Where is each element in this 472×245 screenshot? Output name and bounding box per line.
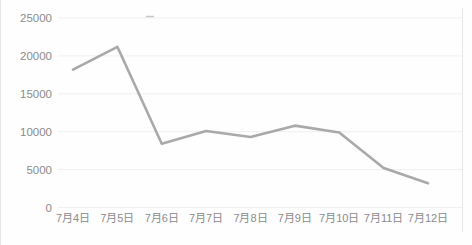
chart-plot-area: 05000100001500020000250007月4日7月5日7月6日7月7… xyxy=(0,0,472,245)
y-axis-tick-label: 5000 xyxy=(26,164,52,176)
x-axis-tick-label: 7月10日 xyxy=(319,212,359,224)
y-axis-tick-label: 25000 xyxy=(20,12,52,24)
y-axis-tick-label: 15000 xyxy=(20,88,52,100)
y-axis-tick-label: 0 xyxy=(46,202,52,214)
data-series-line xyxy=(73,47,428,183)
x-axis-tick-label: 7月4日 xyxy=(56,212,90,224)
x-axis-tick-label: 7月7日 xyxy=(189,212,223,224)
x-axis-tick-label: 7月6日 xyxy=(145,212,179,224)
x-axis-tick-label: 7月5日 xyxy=(100,212,134,224)
y-axis-tick-label: 20000 xyxy=(20,50,52,62)
x-axis-tick-label: 7月8日 xyxy=(233,212,267,224)
x-axis-tick-label: 7月11日 xyxy=(364,212,404,224)
line-chart: 05000100001500020000250007月4日7月5日7月6日7月7… xyxy=(0,0,472,245)
x-axis-tick-label: 7月12日 xyxy=(408,212,448,224)
y-axis-tick-label: 10000 xyxy=(20,126,52,138)
x-axis-tick-label: 7月9日 xyxy=(278,212,312,224)
